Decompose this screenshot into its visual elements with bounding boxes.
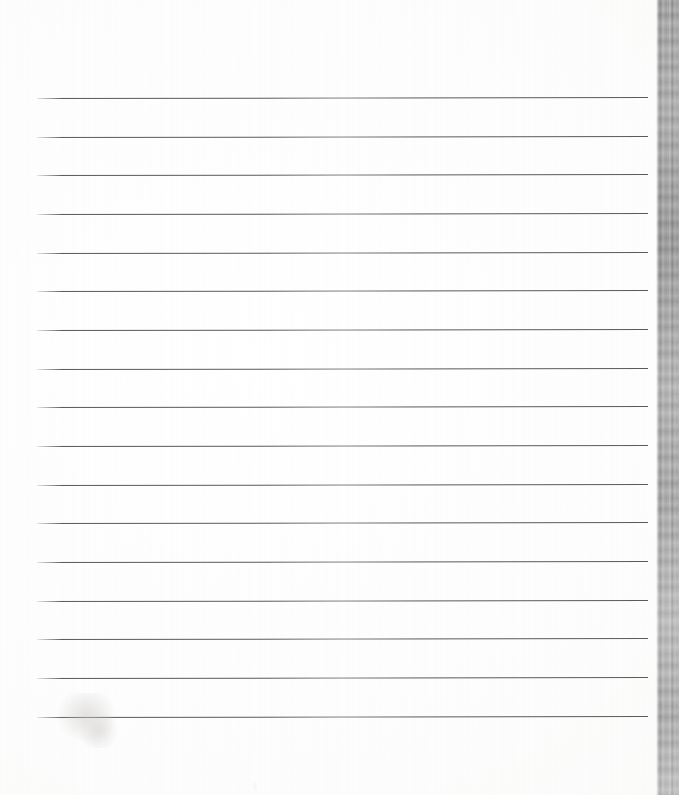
scanner-edge-highlight [656,0,679,795]
scanner-edge-seam [656,0,658,795]
scanned-page [0,0,679,795]
scanner-edge-band [656,0,679,795]
paper-sheet [0,0,656,795]
